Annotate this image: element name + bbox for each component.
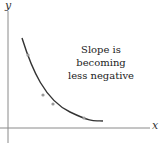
- slope-annotation: Slope is becoming less negative: [62, 43, 140, 82]
- curve-marker: [26, 53, 29, 56]
- annotation-line-2: becoming: [62, 56, 140, 69]
- y-axis-label: y: [5, 0, 11, 11]
- curve-marker: [51, 102, 54, 105]
- annotation-line-1: Slope is: [62, 43, 140, 56]
- x-axis-label: x: [152, 120, 158, 131]
- curve-marker: [41, 93, 44, 96]
- diagram: y x Slope is becoming less negative: [0, 0, 160, 144]
- annotation-line-3: less negative: [62, 69, 140, 82]
- curve-marker: [82, 116, 85, 119]
